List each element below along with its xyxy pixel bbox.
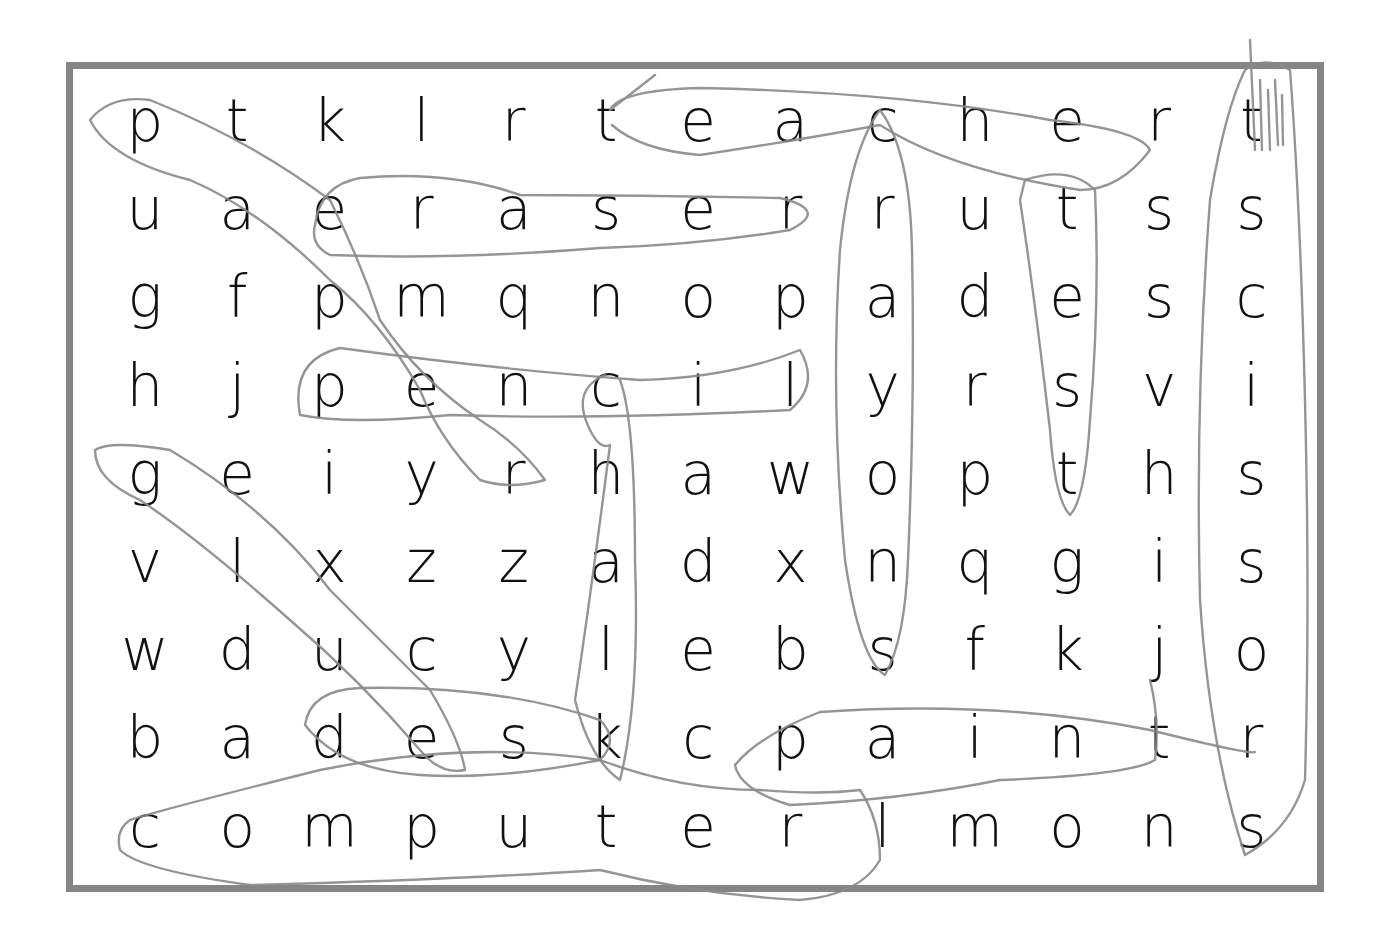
grid-letter: a xyxy=(853,703,913,773)
grid-letter: c xyxy=(392,615,452,685)
grid-letter: w xyxy=(115,615,175,685)
grid-letter: a xyxy=(207,174,267,244)
grid-letter: m xyxy=(392,262,452,332)
grid-letter: t xyxy=(576,86,636,156)
grid-letter: i xyxy=(668,351,728,421)
grid-letter: l xyxy=(207,527,267,597)
grid-letter: c xyxy=(668,703,728,773)
grid-letter: s xyxy=(853,615,913,685)
grid-letter: c xyxy=(576,351,636,421)
grid-letter: x xyxy=(760,527,820,597)
grid-letter: r xyxy=(853,174,913,244)
grid-letter: p xyxy=(760,703,820,773)
grid-letter: o xyxy=(1221,615,1281,685)
grid-letter: p xyxy=(760,262,820,332)
grid-letter: i xyxy=(945,703,1005,773)
grid-letter: e xyxy=(392,703,452,773)
grid-letter: t xyxy=(1221,86,1281,156)
grid-letter: s xyxy=(1221,792,1281,862)
grid-letter: k xyxy=(1037,615,1097,685)
grid-letter: o xyxy=(207,792,267,862)
grid-letter: o xyxy=(853,439,913,509)
grid-letter: o xyxy=(1037,792,1097,862)
grid-letter: t xyxy=(1037,174,1097,244)
grid-letter: s xyxy=(1221,439,1281,509)
grid-letter: j xyxy=(1129,615,1189,685)
grid-letter: n xyxy=(853,527,913,597)
grid-letter: s xyxy=(484,703,544,773)
grid-letter: n xyxy=(1129,792,1189,862)
grid-letter: e xyxy=(1037,86,1097,156)
grid-letter: v xyxy=(115,527,175,597)
grid-letter: r xyxy=(484,86,544,156)
grid-letter: b xyxy=(760,615,820,685)
grid-letter: k xyxy=(576,703,636,773)
grid-letter: f xyxy=(945,615,1005,685)
grid-letter: e xyxy=(668,174,728,244)
grid-letter: t xyxy=(576,792,636,862)
grid-letter: l xyxy=(576,615,636,685)
grid-letter: p xyxy=(299,351,359,421)
grid-letter: e xyxy=(1037,262,1097,332)
grid-letter: g xyxy=(1037,527,1097,597)
grid-letter: s xyxy=(1129,262,1189,332)
grid-letter: g xyxy=(115,439,175,509)
grid-letter: d xyxy=(945,262,1005,332)
grid-letter: e xyxy=(668,792,728,862)
grid-letter: p xyxy=(392,792,452,862)
grid-letter: a xyxy=(853,262,913,332)
grid-letter: h xyxy=(1129,439,1189,509)
grid-letter: d xyxy=(207,615,267,685)
grid-letter: u xyxy=(945,174,1005,244)
grid-letter: m xyxy=(945,792,1005,862)
grid-letter: n xyxy=(576,262,636,332)
grid-letter: r xyxy=(760,792,820,862)
grid-letter: p xyxy=(115,86,175,156)
grid-letter: d xyxy=(668,527,728,597)
grid-letter: u xyxy=(299,615,359,685)
grid-letter: t xyxy=(1129,703,1189,773)
grid-letter: s xyxy=(1221,174,1281,244)
grid-letter: y xyxy=(392,439,452,509)
grid-letter: v xyxy=(1129,351,1189,421)
grid-letter: a xyxy=(760,86,820,156)
grid-letter: e xyxy=(392,351,452,421)
grid-letter: x xyxy=(299,527,359,597)
grid-letter: i xyxy=(1221,351,1281,421)
grid-letter: q xyxy=(484,262,544,332)
grid-letter: s xyxy=(1129,174,1189,244)
grid-letter: k xyxy=(299,86,359,156)
grid-letter: r xyxy=(760,174,820,244)
grid-letter: e xyxy=(299,174,359,244)
grid-letter: p xyxy=(945,439,1005,509)
grid-letter: r xyxy=(484,439,544,509)
grid-letter: h xyxy=(945,86,1005,156)
grid-letter: a xyxy=(207,703,267,773)
grid-letter: c xyxy=(1221,262,1281,332)
grid-letter: y xyxy=(853,351,913,421)
grid-letter: h xyxy=(576,439,636,509)
grid-letter: h xyxy=(115,351,175,421)
grid-letter: s xyxy=(1037,351,1097,421)
grid-letter: z xyxy=(392,527,452,597)
grid-letter: r xyxy=(945,351,1005,421)
grid-letter: c xyxy=(853,86,913,156)
grid-letter: l xyxy=(392,86,452,156)
grid-letter: b xyxy=(115,703,175,773)
grid-letter: y xyxy=(484,615,544,685)
grid-letter: r xyxy=(1221,703,1281,773)
grid-letter: l xyxy=(853,792,913,862)
grid-letter: a xyxy=(668,439,728,509)
grid-letter: c xyxy=(115,792,175,862)
grid-letter: s xyxy=(1221,527,1281,597)
grid-letter: d xyxy=(299,703,359,773)
grid-letter: u xyxy=(484,792,544,862)
grid-letter: l xyxy=(760,351,820,421)
letter-grid: ptklrteachertuaeraserrutssgfpmqnopadesch… xyxy=(0,0,1383,935)
grid-letter: r xyxy=(1129,86,1189,156)
grid-letter: e xyxy=(668,615,728,685)
grid-letter: n xyxy=(484,351,544,421)
grid-letter: t xyxy=(1037,439,1097,509)
grid-letter: n xyxy=(1037,703,1097,773)
grid-letter: a xyxy=(576,527,636,597)
